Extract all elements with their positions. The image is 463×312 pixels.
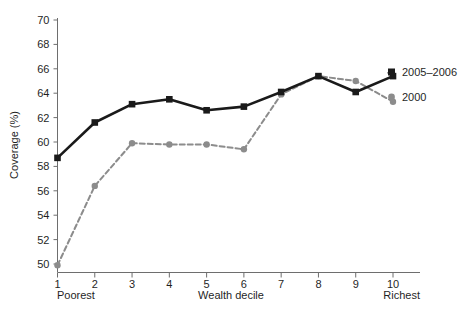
series-2000-point-9 — [353, 78, 359, 84]
series-2005-2006-point-2 — [91, 119, 98, 126]
y-tick-label-58: 58 — [37, 160, 49, 172]
series-2000-point-6 — [241, 146, 247, 152]
chart-canvas: 5052545658606264666870 12345678910 Cover… — [0, 0, 463, 312]
series-2005-2006-point-8 — [315, 73, 322, 80]
series-2005-2006-point-7 — [278, 89, 285, 96]
series-2000-point-1 — [54, 262, 60, 268]
legend-marker-2000 — [388, 94, 395, 101]
x-tick-label-7: 7 — [278, 278, 284, 290]
series-2000-point-4 — [166, 141, 172, 147]
legend-marker-2005-2006 — [388, 69, 395, 76]
series-2005-2006-point-6 — [241, 103, 248, 110]
x-tick-label-8: 8 — [315, 278, 321, 290]
chart-background — [0, 0, 463, 312]
y-tick-label-50: 50 — [37, 258, 49, 270]
y-tick-label-60: 60 — [37, 136, 49, 148]
y-tick-label-56: 56 — [37, 185, 49, 197]
y-tick-label-64: 64 — [37, 87, 49, 99]
y-tick-label-52: 52 — [37, 234, 49, 246]
y-tick-label-54: 54 — [37, 209, 49, 221]
series-2005-2006-point-5 — [203, 107, 210, 114]
series-2005-2006-point-1 — [54, 155, 61, 162]
legend-label-2005-2006: 2005–2006 — [402, 66, 457, 78]
y-tick-label-70: 70 — [37, 14, 49, 26]
coverage-by-wealth-decile-chart: 5052545658606264666870 12345678910 Cover… — [0, 0, 463, 312]
legend-label-2000: 2000 — [402, 91, 426, 103]
series-2005-2006-point-3 — [129, 101, 136, 108]
x-tick-label-4: 4 — [166, 278, 172, 290]
y-tick-label-62: 62 — [37, 112, 49, 124]
x-tick-label-3: 3 — [129, 278, 135, 290]
y-tick-label-66: 66 — [37, 63, 49, 75]
y-axis-title: Coverage (%) — [8, 111, 20, 179]
x-tick-label-9: 9 — [353, 278, 359, 290]
series-2005-2006-point-9 — [352, 89, 359, 96]
y-tick-label-68: 68 — [37, 38, 49, 50]
series-2005-2006-point-4 — [166, 96, 173, 103]
x-axis-title: Wealth decile — [198, 289, 264, 301]
x-axis-poorest-label: Poorest — [57, 289, 95, 301]
series-2000-point-5 — [203, 141, 209, 147]
series-2000-point-3 — [129, 140, 135, 146]
series-2000-point-2 — [92, 183, 98, 189]
x-axis-richest-label: Richest — [383, 289, 420, 301]
